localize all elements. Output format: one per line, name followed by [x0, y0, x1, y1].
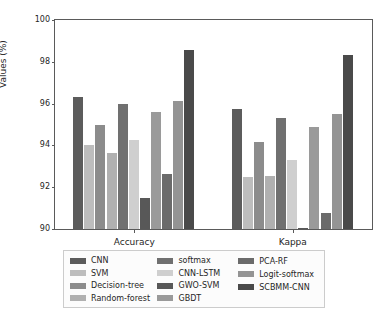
legend-label: SVM [91, 269, 108, 278]
legend-label: CNN [91, 256, 109, 265]
y-axis-tick-mark [52, 145, 56, 146]
bar-kappa-gwo-svm [298, 228, 308, 229]
legend-swatch-icon [157, 258, 173, 264]
legend-swatch-icon [157, 295, 173, 301]
bar-chart-figure: 9092949698100AccuracyKappa Values (%) CN… [0, 0, 387, 314]
legend-item-decision-tree[interactable]: Decision-tree [70, 280, 157, 292]
y-axis-tick-mark [52, 62, 56, 63]
y-axis-tick-label: 94 [28, 141, 50, 149]
bar-accuracy-decision-tree [95, 125, 105, 230]
legend-item-cnn-lstm[interactable]: CNN-LSTM [157, 268, 238, 280]
legend-label: GBDT [178, 294, 201, 303]
legend-swatch-icon [70, 295, 86, 301]
legend-swatch-icon [157, 283, 173, 289]
bar-accuracy-random-forest [107, 153, 117, 229]
legend-swatch-icon [157, 270, 173, 276]
x-axis-tick-mark [293, 229, 294, 233]
bar-accuracy-pca-rf [162, 174, 172, 229]
legend-item-softmax[interactable]: softmax [157, 255, 238, 267]
plot-axes: 9092949698100AccuracyKappa [54, 19, 373, 230]
legend-column-2: softmaxCNN-LSTMGWO-SVMGBDT [157, 255, 238, 304]
bar-kappa-pca-rf [321, 213, 331, 229]
bar-accuracy-svm [84, 145, 94, 229]
y-axis-tick-mark [52, 187, 56, 188]
y-axis-tick-label: 96 [28, 100, 50, 108]
legend-item-svm[interactable]: SVM [70, 268, 157, 280]
legend-column-3: PCA-RFLogit-softmaxSCBMM-CNN [238, 255, 319, 304]
legend-label: SCBMM-CNN [259, 283, 309, 292]
x-axis-tick-label-accuracy: Accuracy [114, 237, 155, 247]
legend-column-1: CNNSVMDecision-treeRandom-forest [70, 255, 157, 304]
legend-label: Logit-softmax [259, 270, 314, 279]
y-axis-tick-label: 98 [28, 58, 50, 66]
legend-swatch-icon [70, 283, 86, 289]
legend-label: GWO-SVM [178, 281, 219, 290]
legend-item-scbmm-cnn[interactable]: SCBMM-CNN [238, 281, 319, 293]
bar-accuracy-cnn [73, 97, 83, 229]
legend-label: Decision-tree [91, 281, 144, 290]
bar-kappa-svm [243, 177, 253, 229]
legend-swatch-icon [70, 270, 86, 276]
legend-swatch-icon [238, 258, 254, 264]
legend-item-logit-softmax[interactable]: Logit-softmax [238, 268, 319, 280]
x-axis-tick-mark [134, 229, 135, 233]
bar-kappa-logit-softmax [332, 114, 342, 229]
legend-item-pca-rf[interactable]: PCA-RF [238, 255, 319, 267]
bar-accuracy-gbdt [151, 112, 161, 229]
legend-label: PCA-RF [259, 257, 288, 266]
y-axis-tick-label: 92 [28, 183, 50, 191]
legend-swatch-icon [70, 258, 86, 264]
bar-accuracy-gwo-svm [140, 198, 150, 229]
chart-legend: CNNSVMDecision-treeRandom-forest softmax… [63, 250, 325, 308]
bar-accuracy-logit-softmax [173, 101, 183, 229]
bar-accuracy-softmax [118, 104, 128, 229]
bar-accuracy-scbmm-cnn [184, 50, 194, 229]
bar-accuracy-cnn-lstm [129, 140, 139, 229]
legend-label: Random-forest [91, 294, 150, 303]
legend-swatch-icon [238, 284, 254, 290]
y-axis-label: Values (%) [0, 40, 8, 88]
x-axis-tick-label-kappa: Kappa [279, 237, 307, 247]
y-axis-tick-mark [52, 229, 56, 230]
y-axis-tick-label: 90 [28, 225, 50, 233]
y-axis-tick-label: 100 [28, 16, 50, 24]
plot-area [55, 20, 372, 229]
legend-item-gwo-svm[interactable]: GWO-SVM [157, 280, 238, 292]
bar-kappa-gbdt [309, 127, 319, 229]
y-axis-tick-mark [52, 104, 56, 105]
bar-kappa-scbmm-cnn [343, 55, 353, 229]
legend-label: CNN-LSTM [178, 269, 220, 278]
legend-swatch-icon [238, 271, 254, 277]
bar-kappa-random-forest [265, 176, 275, 230]
legend-item-cnn[interactable]: CNN [70, 255, 157, 267]
bar-kappa-decision-tree [254, 142, 264, 229]
y-axis-tick-mark [52, 20, 56, 21]
bar-kappa-cnn-lstm [287, 160, 297, 229]
legend-label: softmax [178, 256, 210, 265]
bar-kappa-softmax [276, 118, 286, 229]
legend-item-gbdt[interactable]: GBDT [157, 293, 238, 305]
bar-kappa-cnn [232, 109, 242, 229]
legend-item-random-forest[interactable]: Random-forest [70, 293, 157, 305]
